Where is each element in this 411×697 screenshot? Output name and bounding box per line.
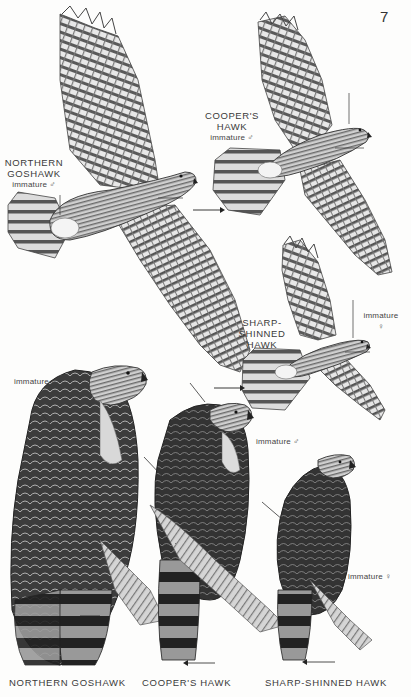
age-sex-label: immature bbox=[355, 310, 407, 321]
northern-goshawk-perched-figure bbox=[11, 366, 165, 665]
pointer-arrow bbox=[214, 385, 245, 391]
field-guide-plate: 7 NORTHERN GOSHAWK immature ♂ COOPER'S H… bbox=[0, 0, 411, 697]
sharp-shinned-hawk-perched-age-sex: immature ♀ bbox=[348, 571, 410, 582]
species-name-line: COOPER'S bbox=[200, 110, 264, 121]
age-sex-label: immature ♂ bbox=[2, 179, 66, 190]
page-number: 7 bbox=[380, 8, 388, 25]
sex-symbol: ♀ bbox=[355, 321, 407, 332]
species-name-line: SHARP- bbox=[236, 317, 288, 328]
species-name-line: GOSHAWK bbox=[2, 168, 66, 179]
northern-goshawk-perched-age-sex: immature ♂ bbox=[14, 376, 74, 387]
species-name-line: HAWK bbox=[236, 339, 288, 350]
coopers-hawk-caption: COOPER'S HAWK bbox=[142, 677, 231, 688]
coopers-hawk-flight-figure bbox=[213, 12, 392, 275]
sharp-shinned-hawk-caption: SHARP-SHINNED HAWK bbox=[265, 677, 387, 688]
hawk-illustrations bbox=[0, 0, 411, 697]
pointer-arrow bbox=[193, 207, 225, 213]
sharp-shinned-hawk-flight-age-sex: immature ♀ bbox=[355, 310, 407, 332]
species-name-line: SHINNED bbox=[236, 328, 288, 339]
sharp-shinned-hawk-perched-figure bbox=[262, 455, 372, 665]
coopers-hawk-perched-figure bbox=[144, 383, 285, 666]
species-name-line: HAWK bbox=[200, 121, 264, 132]
species-name-line: NORTHERN bbox=[2, 157, 66, 168]
age-sex-label: immature ♂ bbox=[200, 132, 264, 143]
sharp-shinned-hawk-flight-label: SHARP- SHINNED HAWK bbox=[236, 317, 288, 350]
coopers-hawk-perched-age-sex: immature ♂ bbox=[256, 436, 316, 447]
northern-goshawk-caption: NORTHERN GOSHAWK bbox=[9, 677, 126, 688]
coopers-hawk-flight-label: COOPER'S HAWK immature ♂ bbox=[200, 110, 264, 143]
northern-goshawk-flight-label: NORTHERN GOSHAWK immature ♂ bbox=[2, 157, 66, 190]
